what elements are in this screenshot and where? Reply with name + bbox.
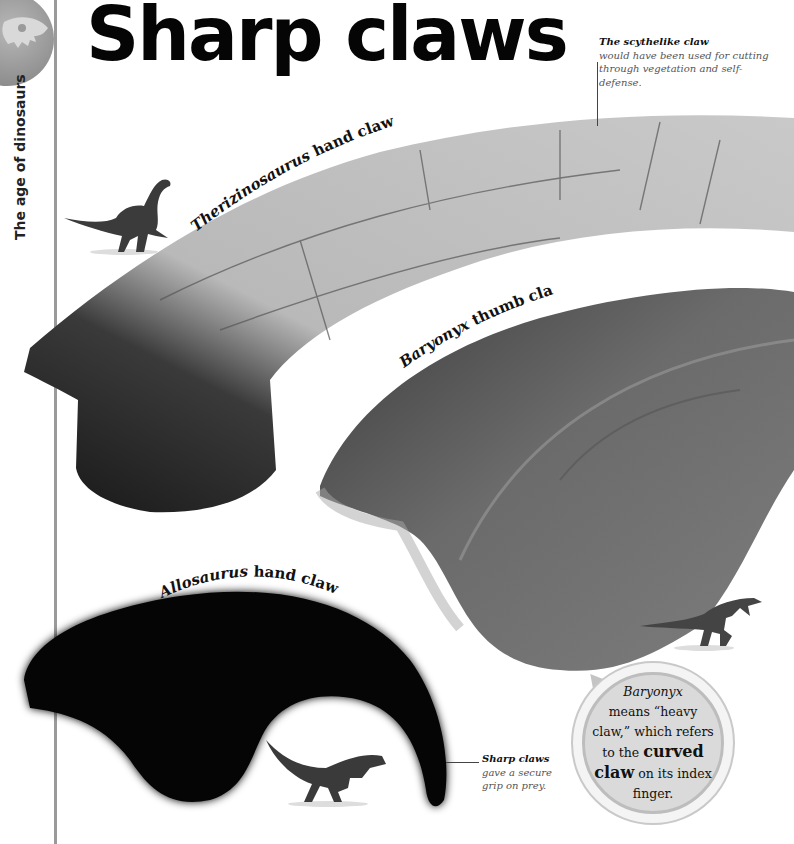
scythe-annotation: The scythelike claw would have been used…: [599, 35, 779, 89]
sharp-annotation: Sharp claws gave a secure grip on prey.: [482, 752, 572, 793]
fact-bubble-text: Baryonyx means “heavy claw,” which refer…: [588, 682, 718, 804]
allosaurus-claw: [24, 592, 446, 807]
fact-bubble: Baryonyx means “heavy claw,” which refer…: [571, 661, 735, 825]
fact-bubble-line2: on its index finger.: [633, 766, 712, 801]
sharp-annotation-lead: Sharp claws: [482, 752, 572, 766]
sharp-annotation-body: gave a secure grip on prey.: [482, 767, 552, 792]
allosaurus-icon: [266, 740, 386, 807]
therizinosaurus-icon: [64, 179, 171, 255]
scythe-annotation-body: would have been used for cutting through…: [599, 50, 769, 88]
sharp-annotation-leader: [446, 762, 479, 763]
scythe-annotation-leader: [597, 62, 598, 126]
fact-bubble-inner: Baryonyx means “heavy claw,” which refer…: [582, 672, 724, 814]
fact-bubble-name: Baryonyx: [623, 684, 682, 699]
scythe-annotation-lead: The scythelike claw: [599, 35, 779, 49]
